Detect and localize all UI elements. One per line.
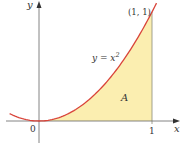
x-axis-label: x	[174, 123, 180, 134]
y-axis-label: y	[26, 0, 33, 10]
y-axis-arrow-icon	[37, 1, 42, 8]
point-label: (1, 1)	[128, 7, 151, 17]
area-diagram: y x 0 1 (1, 1) y = x2 A	[0, 0, 185, 155]
curve-label: y = x2	[91, 51, 120, 63]
region-a-fill	[39, 12, 152, 121]
tick-label-1: 1	[149, 126, 155, 136]
origin-label: 0	[30, 124, 36, 134]
region-label: A	[120, 92, 128, 103]
